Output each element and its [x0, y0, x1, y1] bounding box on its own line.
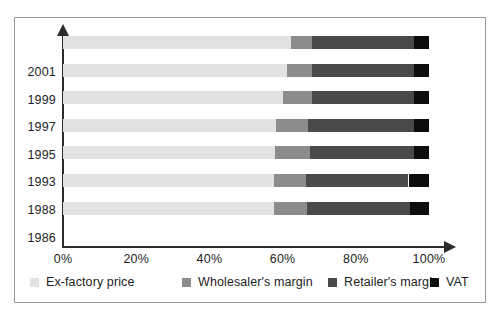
bar-segment [410, 202, 429, 215]
y-tick-label: 2001 [10, 65, 56, 79]
bar-segment [414, 36, 429, 49]
bar-segment [414, 146, 429, 159]
chart-legend: Ex-factory priceWholesaler's marginRetai… [30, 275, 470, 293]
bar-row [63, 174, 429, 187]
x-tick-label: 100% [413, 252, 446, 266]
bar-segment [63, 174, 274, 187]
legend-item[interactable]: Wholesaler's margin [182, 275, 313, 289]
x-tick-label: 20% [123, 252, 149, 266]
bar-segment [276, 119, 308, 132]
legend-label: Wholesaler's margin [198, 275, 313, 289]
bar-segment [287, 64, 312, 77]
bar-segment [409, 174, 429, 187]
y-tick-label: 1997 [10, 120, 56, 134]
legend-item[interactable]: Retailer's margin [328, 275, 439, 289]
chart-figure: 2001199919971995199319881986 0%20%40%60%… [0, 0, 500, 320]
bar-segment [274, 174, 306, 187]
legend-label: Ex-factory price [46, 275, 134, 289]
bar-segment [312, 36, 414, 49]
bar-segment [308, 119, 414, 132]
y-axis-tick-labels: 2001199919971995199319881986 [8, 0, 56, 320]
bar-segment [414, 119, 429, 132]
bar-row [63, 91, 429, 104]
legend-swatch-icon [328, 278, 337, 287]
legend-label: VAT [446, 275, 469, 289]
x-tick-label: 80% [343, 252, 369, 266]
bar-segment [414, 91, 429, 104]
bar-segment [312, 64, 414, 77]
bar-segment [414, 64, 429, 77]
x-tick-label: 40% [197, 252, 223, 266]
bar-segment [307, 202, 409, 215]
bar-segment [275, 146, 310, 159]
bar-row [63, 146, 429, 159]
bar-row [63, 64, 429, 77]
bar-segment [283, 91, 312, 104]
bar-row [63, 36, 429, 49]
bar-segment [63, 91, 283, 104]
bar-segment [63, 36, 291, 49]
bar-segment [291, 36, 312, 49]
legend-item[interactable]: VAT [430, 275, 469, 289]
bar-segment [274, 202, 307, 215]
y-tick-label: 1988 [10, 203, 56, 217]
y-tick-label: 1995 [10, 148, 56, 162]
bar-segment [310, 146, 414, 159]
legend-swatch-icon [430, 278, 439, 287]
bar-segment [63, 119, 276, 132]
bar-segment [312, 91, 414, 104]
bar-segment [63, 202, 274, 215]
plot-area [63, 36, 429, 248]
x-axis-tick-labels: 0%20%40%60%80%100% [0, 252, 500, 272]
legend-swatch-icon [182, 278, 191, 287]
y-tick-label: 1999 [10, 93, 56, 107]
x-tick-label: 60% [270, 252, 296, 266]
bar-segment [63, 64, 287, 77]
y-tick-label: 1993 [10, 175, 56, 189]
legend-swatch-icon [30, 278, 39, 287]
legend-label: Retailer's margin [344, 275, 439, 289]
x-tick-label: 0% [54, 252, 72, 266]
bar-segment [306, 174, 408, 187]
legend-item[interactable]: Ex-factory price [30, 275, 134, 289]
bar-row [63, 119, 429, 132]
bar-segment [63, 146, 275, 159]
bar-row [63, 202, 429, 215]
y-tick-label: 1986 [10, 231, 56, 245]
